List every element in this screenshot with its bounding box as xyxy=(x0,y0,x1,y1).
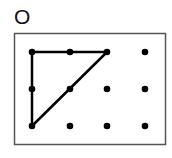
dot-grid-diagram xyxy=(0,0,172,158)
grid-dots xyxy=(29,49,149,130)
